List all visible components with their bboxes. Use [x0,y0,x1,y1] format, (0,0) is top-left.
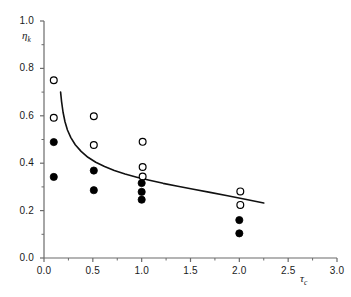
y-tick-label: 0.6 [10,110,34,121]
filled-circle-marker [50,139,57,146]
open-circle-marker [237,202,244,209]
y-tick-label: 0.4 [10,157,34,168]
filled-circle-marker [138,180,145,187]
filled-circle-marker [50,173,57,180]
open-circle-marker [90,113,97,120]
filled-circle-marker [138,188,145,195]
x-tick-label: 2.5 [273,265,303,276]
open-circle-marker [139,138,146,145]
y-tick-label: 0.2 [10,205,34,216]
x-tick-label: 0.0 [29,265,59,276]
y-tick-label: 0.8 [10,62,34,73]
filled-circle-marker [236,216,243,223]
filled-circle-marker [90,167,97,174]
open-circle-marker [50,114,57,121]
scatter-plot [0,0,351,297]
figure-container: 0.00.20.40.60.81.00.00.51.01.52.02.53.0 … [0,0,351,297]
x-tick-label: 0.5 [78,265,108,276]
y-tick-label: 1.0 [10,15,34,26]
axes [40,21,337,262]
open-circle-marker [237,188,244,195]
filled-circle-marker [138,196,145,203]
filled-circle-marker [90,187,97,194]
x-tick-label: 1.0 [127,265,157,276]
data-markers [50,77,244,237]
x-axis-label: τc [300,272,307,287]
open-circle-marker [139,173,146,180]
x-tick-label: 2.0 [224,265,254,276]
open-circle-marker [139,164,146,171]
open-circle-marker [90,142,97,149]
x-tick-label: 3.0 [322,265,351,276]
filled-circle-marker [236,230,243,237]
x-tick-label: 1.5 [176,265,206,276]
open-circle-marker [50,77,57,84]
y-axis-label: ηk [22,29,31,44]
y-tick-label: 0.0 [10,252,34,263]
